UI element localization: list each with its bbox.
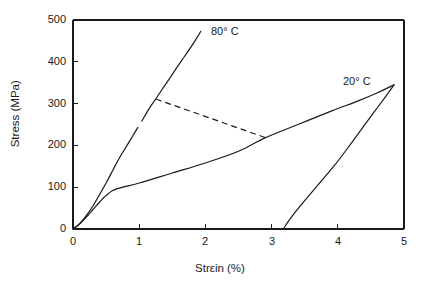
x-tick-label-5: 5	[392, 236, 416, 247]
transition-dashed-line	[156, 99, 265, 137]
x-tick-label-2: 2	[193, 236, 217, 247]
y-tick-label-100: 100	[28, 181, 66, 192]
series-label-20c: 20° C	[343, 76, 371, 87]
x-tick-label-0: 0	[61, 236, 85, 247]
axis-frame	[73, 20, 404, 229]
curve-20c-loading	[73, 85, 394, 229]
series-label-80c: 80° C	[211, 26, 239, 37]
x-axis-title: Strεin (%)	[120, 263, 320, 275]
x-tick-label-1: 1	[127, 236, 151, 247]
y-tick-label-500: 500	[28, 14, 66, 25]
y-tick-label-300: 300	[28, 98, 66, 109]
y-tick-label-200: 200	[28, 139, 66, 150]
curve-80c-upper	[142, 31, 201, 121]
y-tick-label-400: 400	[28, 56, 66, 67]
curve-20c-unloading	[284, 85, 395, 229]
y-axis-title: Stress (MPa)	[10, 54, 22, 174]
stress-strain-chart: 0 100 200 300 400 500 0 1 2 3 4 5 Stress…	[0, 0, 421, 287]
curve-80c-lower	[73, 127, 138, 229]
y-tick-label-0: 0	[28, 223, 66, 234]
y-axis-ticks	[73, 20, 78, 229]
x-axis-ticks	[73, 224, 404, 229]
x-tick-label-3: 3	[260, 236, 284, 247]
x-tick-label-4: 4	[326, 236, 350, 247]
